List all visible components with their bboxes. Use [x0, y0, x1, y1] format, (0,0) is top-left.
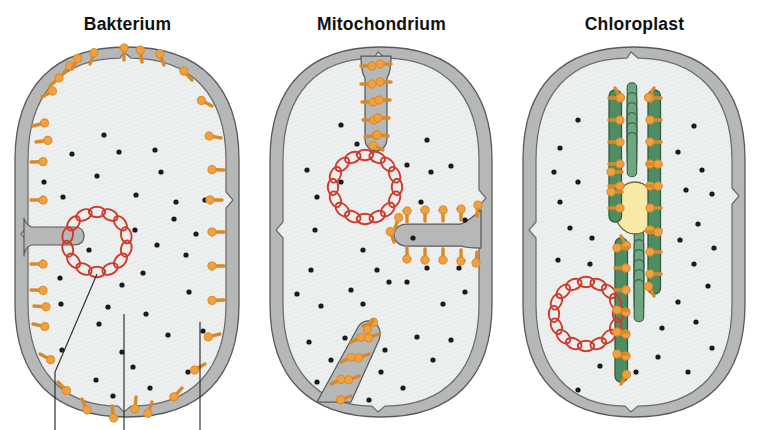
- granum-stack-lower: [634, 230, 644, 322]
- cell-stage-chloroplast: [508, 42, 761, 430]
- panel-title-chloroplast: Chloroplast: [508, 14, 761, 35]
- panel-mitochondrium: Mitochondrium: [255, 0, 508, 430]
- panel-title-bakterium: Bakterium: [0, 14, 255, 35]
- mitochondrium-drawing: [255, 42, 508, 430]
- thylakoid-upper-left: [609, 90, 622, 222]
- bakterium-drawing: [0, 42, 255, 430]
- panel-bakterium: Bakterium: [0, 0, 255, 430]
- panel-chloroplast: Chloroplast: [508, 0, 761, 430]
- chloroplast-drawing: [508, 42, 761, 430]
- cell-stage-mitochondrium: [255, 42, 508, 430]
- panel-title-mitochondrium: Mitochondrium: [255, 14, 508, 35]
- granum-stack-upper: [627, 83, 637, 177]
- cell-stage-bakterium: [0, 42, 255, 430]
- endosymbiosis-figure: Bakterium: [0, 0, 761, 430]
